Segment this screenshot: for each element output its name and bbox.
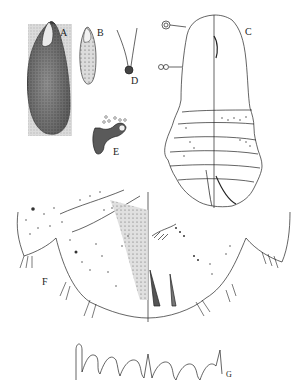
panel-b-scale <box>80 27 96 84</box>
panel-d-gland <box>117 28 137 74</box>
panel-a-scale <box>28 22 72 136</box>
panel-c-body <box>159 15 263 208</box>
label-e: E <box>113 147 119 157</box>
figure-plate: A B D E C F G <box>0 0 294 390</box>
label-f: F <box>42 277 48 287</box>
label-c: C <box>245 27 252 37</box>
label-a: A <box>60 28 67 38</box>
panel-e-plate <box>93 116 126 154</box>
label-g: G <box>226 370 232 380</box>
panel-f-pygidium <box>17 190 290 322</box>
illustration-drawing <box>0 0 294 390</box>
label-b: B <box>97 28 104 38</box>
label-d: D <box>131 76 138 86</box>
panel-g-lobes <box>76 344 222 380</box>
panel-f-setae <box>20 252 278 318</box>
